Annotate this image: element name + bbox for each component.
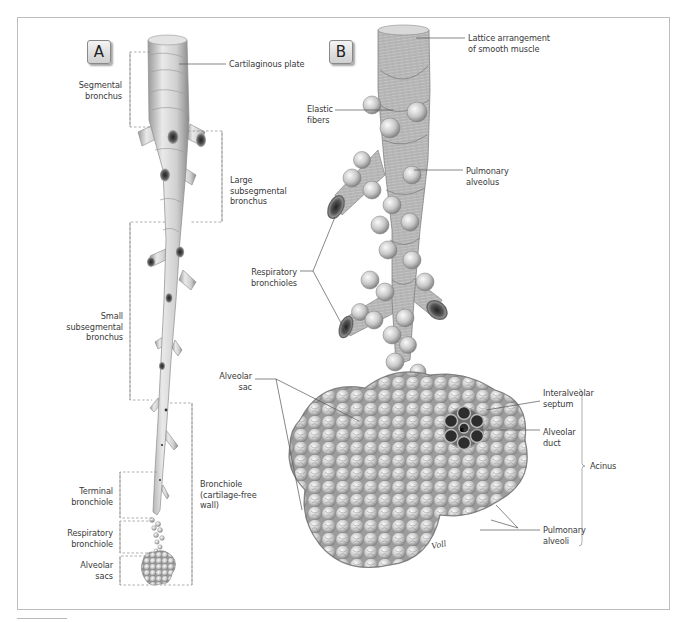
label-alveolar-sac: Alveolar sac [200, 371, 252, 392]
label-respiratory-bronchiole: Respiratory bronchiole [55, 528, 113, 549]
label-bronchiole: Bronchiole (cartilage-free wall) [200, 479, 257, 511]
label-segmental-bronchus: Segmental bronchus [60, 80, 122, 101]
panel-b-badge: B [329, 40, 353, 64]
label-lattice-smooth-muscle: Lattice arrangement of smooth muscle [468, 33, 550, 54]
label-pulmonary-alveoli: Pulmonary alveoli [543, 525, 586, 546]
label-pulmonary-alveolus: Pulmonary alveolus [466, 166, 509, 187]
label-small-subsegmental-bronchus: Small subsegmental bronchus [50, 311, 123, 343]
alveolar-duct-section [444, 407, 484, 450]
panel-a-bronchial-tree [138, 35, 206, 585]
label-acinus: Acinus [590, 461, 616, 472]
label-cartilaginous-plate: Cartilaginous plate [229, 59, 304, 70]
label-alveolar-sacs: Alveolar sacs [55, 560, 113, 581]
label-alveolar-duct: Alveolar duct [543, 427, 576, 448]
label-large-subsegmental-bronchus: Large subsegmental bronchus [230, 175, 287, 207]
label-interalveolar-septum: Interalveolar septum [543, 388, 594, 409]
label-elastic-fibers: Elastic fibers [307, 104, 333, 125]
artist-signature: Voll [431, 539, 448, 551]
label-terminal-bronchiole: Terminal bronchiole [55, 486, 113, 507]
label-respiratory-bronchioles: Respiratory bronchioles [230, 267, 297, 288]
acinus-brace [579, 389, 585, 546]
panel-a-badge: A [87, 40, 111, 64]
